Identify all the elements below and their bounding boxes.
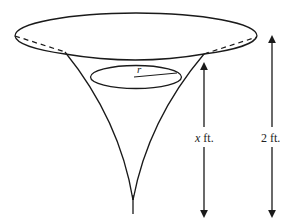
total-height-label: 2 ft. (261, 131, 280, 145)
x-height-label: x ft. (194, 131, 214, 145)
funnel-diagram: r x ft. 2 ft. (0, 0, 294, 222)
funnel-left-side (65, 52, 133, 200)
outer-ellipse-front-arc (65, 54, 204, 60)
outer-ellipse-hidden-right (204, 37, 257, 54)
radius-label: r (137, 63, 142, 75)
